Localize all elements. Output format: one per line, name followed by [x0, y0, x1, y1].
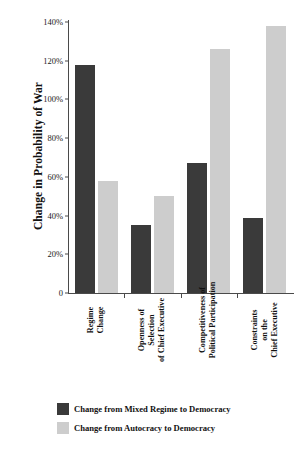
legend-item: Change from Mixed Regime to Democracy: [57, 403, 302, 415]
x-category-label-text: RegimeChange: [86, 307, 106, 334]
legend-swatch-icon: [57, 422, 69, 434]
x-tick-mark: [237, 293, 238, 298]
y-tick-mark: [65, 99, 68, 100]
y-tick-label: 0: [59, 288, 63, 298]
chart-legend: Change from Mixed Regime to DemocracyCha…: [57, 403, 302, 441]
x-category-label: RegimeChange: [68, 300, 124, 392]
bar: [243, 218, 263, 293]
legend-swatch-icon: [57, 403, 69, 415]
y-tick-mark: [65, 293, 68, 294]
legend-label: Change from Mixed Regime to Democracy: [74, 404, 231, 414]
y-tick-label: 100%: [43, 94, 63, 104]
x-category-label: Constraintson theChief Executive: [237, 300, 293, 392]
bar: [98, 181, 118, 293]
y-tick-mark: [65, 138, 68, 139]
bar: [75, 65, 95, 293]
y-tick-mark: [65, 60, 68, 61]
legend-label: Change from Autocracy to Democracy: [74, 423, 215, 433]
x-category-label: Openness ofSelectionof Chief Executive: [124, 300, 180, 392]
bar: [210, 49, 230, 293]
x-category-label-text: Constraintson theChief Executive: [250, 302, 280, 357]
bar: [187, 163, 207, 293]
y-tick-mark: [65, 215, 68, 216]
y-tick-label: 80%: [47, 133, 63, 143]
y-tick-mark: [65, 22, 68, 23]
y-tick-label: 60%: [47, 172, 63, 182]
x-category-label: Competitiveness ofPolitical Participatio…: [181, 300, 237, 392]
x-tick-mark: [124, 293, 125, 298]
bar: [131, 225, 151, 293]
chart-figure: Change in Probability of War 020%40%60%8…: [0, 0, 308, 463]
y-axis-title: Change in Probability of War: [32, 46, 44, 266]
y-tick-label: 140%: [43, 17, 63, 27]
legend-item: Change from Autocracy to Democracy: [57, 422, 302, 434]
plot-area: 020%40%60%80%100%120%140%: [68, 22, 293, 293]
y-tick-label: 40%: [47, 211, 63, 221]
y-tick-label: 20%: [47, 249, 63, 259]
bar: [154, 196, 174, 293]
bar: [266, 26, 286, 293]
y-tick-mark: [65, 176, 68, 177]
y-tick-mark: [65, 254, 68, 255]
y-tick-label: 120%: [43, 56, 63, 66]
x-category-label-text: Openness ofSelectionof Chief Executive: [137, 298, 167, 362]
x-tick-mark: [181, 293, 182, 298]
x-category-label-text: Competitiveness ofPolitical Participatio…: [199, 282, 219, 359]
